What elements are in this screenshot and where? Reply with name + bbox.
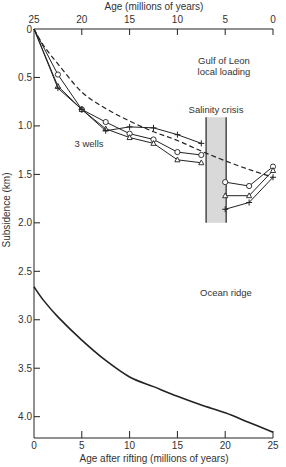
y-axis-tick-label: 0 (26, 24, 32, 35)
x2-axis-title: Age (millions of years) (105, 1, 204, 12)
y-axis-tick-label: 2.0 (18, 217, 32, 228)
bottom-axis-tick-label: 15 (172, 440, 184, 451)
well-point-circle (247, 183, 252, 188)
y-axis-tick-label: 1.5 (18, 169, 32, 180)
y-axis-tick-label: 2.5 (18, 266, 32, 277)
well-point-plus (198, 140, 204, 146)
top-axis-tick-label: 15 (124, 14, 136, 25)
bottom-axis-tick-label: 10 (124, 440, 136, 451)
bottom-axis-tick-label: 20 (220, 440, 232, 451)
y-axis-tick-label: 4.0 (18, 411, 32, 422)
annotation-gulf-of-leon-line2: local loading (198, 66, 251, 77)
top-axis-tick-label: 5 (222, 14, 228, 25)
annotation-3-wells: 3 wells (74, 138, 103, 149)
top-axis-tick-label: 0 (270, 14, 276, 25)
well-point-circle (103, 119, 108, 124)
annotation-salinity-crisis: Salinity crisis (189, 104, 244, 115)
y-axis-tick-label: 3.0 (18, 314, 32, 325)
bottom-axis-tick-label: 0 (31, 440, 37, 451)
y-axis-tick-label: 1.0 (18, 120, 32, 131)
well-point-circle (199, 152, 204, 157)
bottom-axis-tick-label: 5 (79, 440, 85, 451)
top-axis-tick-label: 20 (76, 14, 88, 25)
bottom-axis-tick-label: 25 (267, 440, 279, 451)
well-point-triangle (175, 157, 180, 162)
annotation-gulf-of-leon-line1: Gulf of Leon (198, 55, 250, 66)
well-point-plus (151, 125, 157, 131)
well-circles-line (34, 29, 201, 155)
top-axis-tick-label: 10 (172, 14, 184, 25)
subsidence-chart: 2502051510101552002500.51.01.52.02.53.03… (0, 0, 286, 467)
well-point-circle (55, 72, 60, 77)
annotation-ocean-ridge: Ocean ridge (200, 287, 252, 298)
well-point-plus (174, 132, 180, 138)
well-point-circle (175, 149, 180, 154)
well-triangles-line (34, 29, 201, 163)
salinity-crisis-band (206, 117, 226, 223)
y-axis-tick-label: 3.5 (18, 363, 32, 374)
y-axis-title: Subsidence (km) (1, 172, 12, 247)
well-point-plus (127, 124, 133, 130)
y-axis-tick-label: 0.5 (18, 72, 32, 83)
ocean-ridge-line (34, 287, 273, 432)
well-point-circle (223, 180, 228, 185)
x-axis-title: Age after rifting (millions of years) (80, 453, 229, 464)
